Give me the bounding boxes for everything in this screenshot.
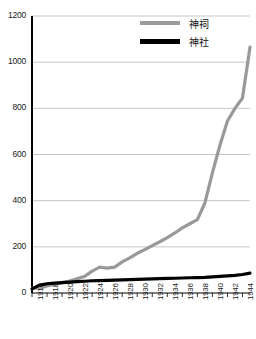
x-axis-tick-label: 1928 — [126, 283, 135, 300]
x-axis-ticks — [32, 293, 242, 297]
x-axis-tick-label: 1920 — [66, 283, 75, 300]
x-axis-tick-label: 1934 — [171, 283, 180, 300]
y-axis-tick-label: 200 — [0, 241, 26, 251]
legend-label-series-2: 神社 — [189, 34, 209, 49]
legend-item-0: 神祠 — [140, 14, 236, 32]
chart-container: 120010008006004002000 191619181920192219… — [0, 0, 256, 339]
series-line-1 — [32, 47, 250, 288]
x-axis-tick-label: 1936 — [186, 283, 195, 300]
x-axis-tick-label: 1918 — [51, 283, 60, 300]
x-axis-tick-label: 1944 — [246, 283, 255, 300]
y-axis-tick-label: 800 — [0, 102, 26, 112]
y-axis-tick-label: 400 — [0, 195, 26, 205]
x-axis-tick-label: 1916 — [36, 283, 45, 300]
legend-label-series-1: 神祠 — [189, 16, 209, 31]
y-axis-tick-label: 1000 — [0, 56, 26, 66]
x-axis-tick-label: 1938 — [201, 283, 210, 300]
x-axis-tick-label: 1940 — [216, 283, 225, 300]
y-axis-tick-label: 1200 — [0, 10, 26, 20]
x-axis-tick-label: 1930 — [141, 283, 150, 300]
x-axis-tick-label: 1924 — [96, 283, 105, 300]
x-axis-tick-label: 1932 — [156, 283, 165, 300]
chart-legend: 神祠 神社 — [140, 14, 236, 52]
y-axis-tick-label: 600 — [0, 149, 26, 159]
x-axis-tick-label: 1942 — [231, 283, 240, 300]
y-axis-tick-label: 0 — [0, 287, 26, 297]
legend-item-1: 神社 — [140, 32, 236, 50]
x-axis-tick-label: 1922 — [81, 283, 90, 300]
data-series — [32, 47, 250, 289]
x-axis-tick-label: 1926 — [111, 283, 120, 300]
legend-swatch-series-1 — [140, 21, 180, 25]
legend-swatch-series-2 — [140, 39, 180, 44]
